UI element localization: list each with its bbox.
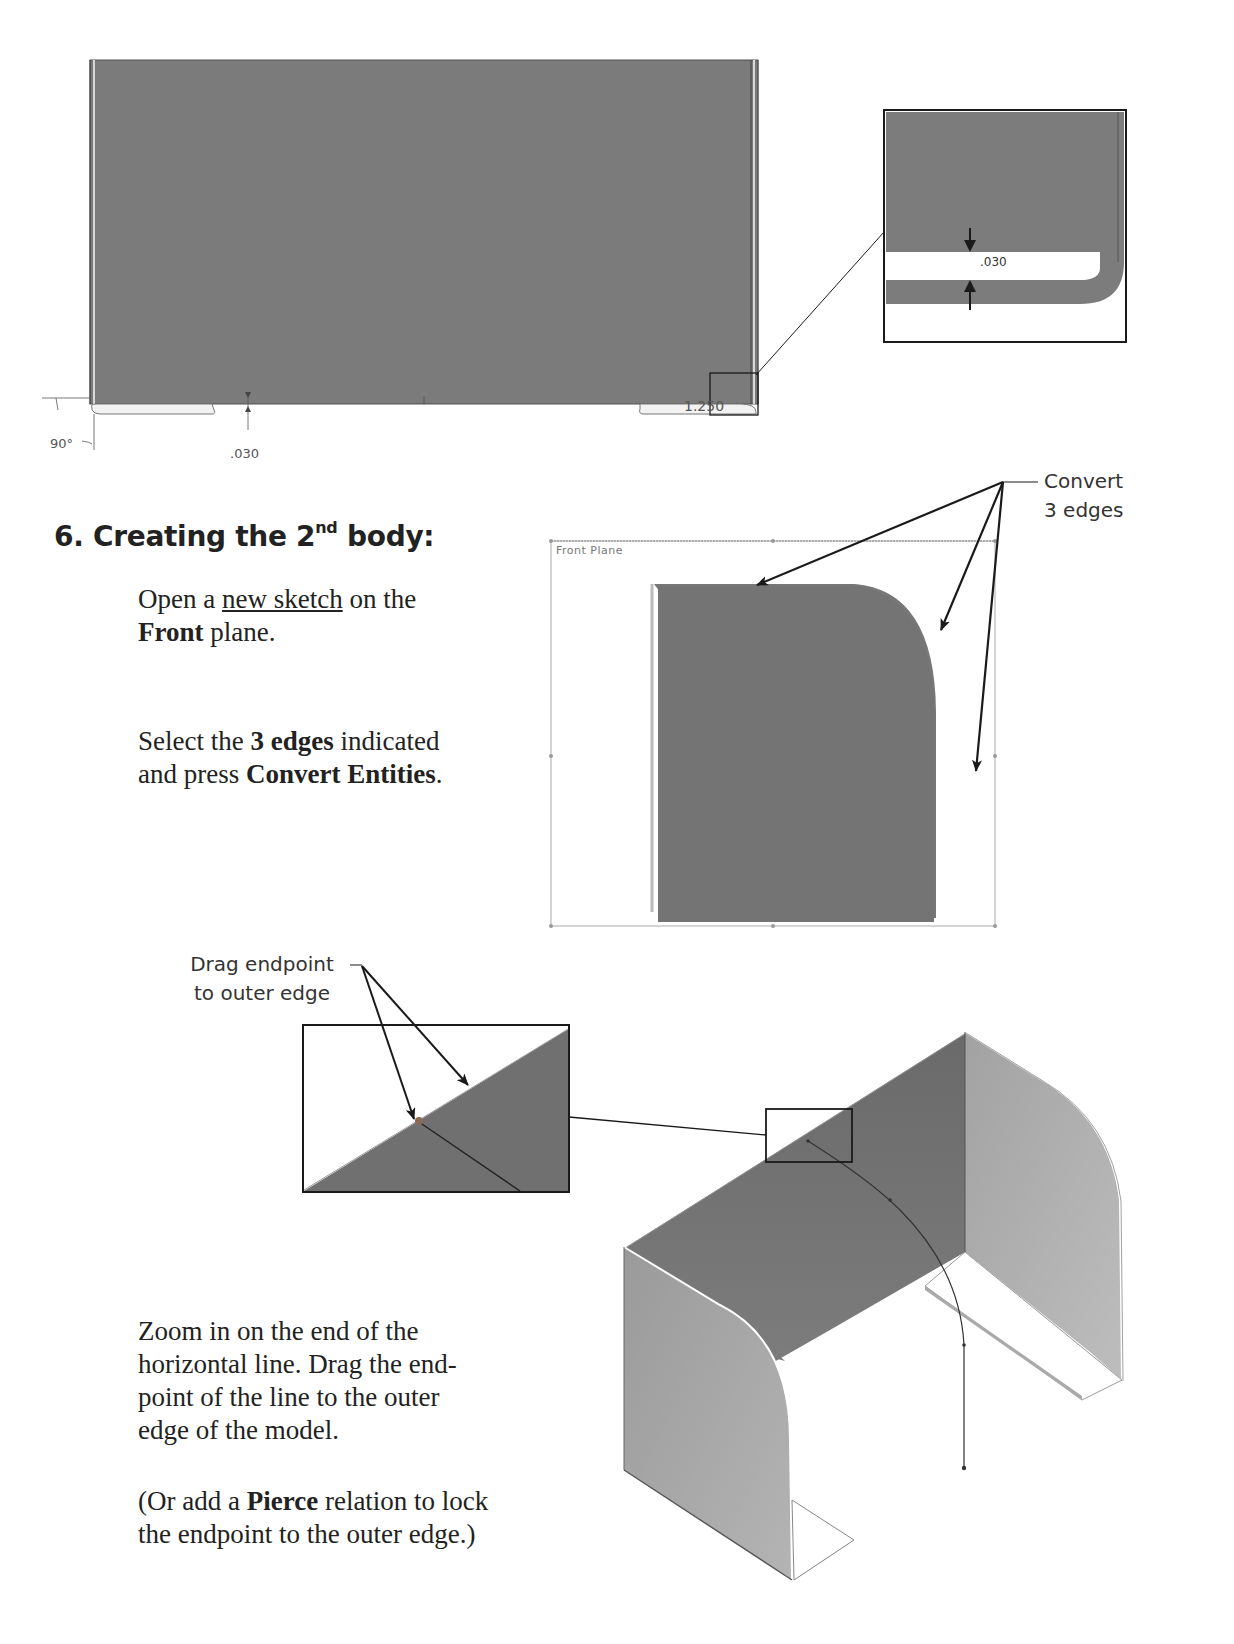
- front-plane-figure: [549, 539, 997, 928]
- section-number: 6.: [54, 520, 84, 553]
- detail-dimension-thickness: .030: [980, 255, 1007, 269]
- convert-edges-callout: Convert 3 edges: [1044, 467, 1184, 525]
- front-plane-label: Front Plane: [556, 544, 623, 557]
- front-plane-bold: Front: [138, 617, 204, 647]
- step3-line: horizontal line. Drag the end-: [138, 1348, 558, 1381]
- step2-text: indicated: [334, 726, 440, 756]
- step3-line: Zoom in on the end of the: [138, 1315, 558, 1348]
- callout-line: to outer edge: [172, 979, 352, 1008]
- step1-text: on the: [343, 584, 417, 614]
- step-convert-entities: Select the 3 edges indicated and press C…: [138, 725, 538, 791]
- callout-line: 3 edges: [1044, 496, 1184, 525]
- new-sketch-link: new sketch: [222, 584, 343, 614]
- step2-text: Select the: [138, 726, 250, 756]
- step-pierce-relation: (Or add a Pierce relation to lock the en…: [138, 1485, 578, 1551]
- detail-view: [884, 110, 1126, 342]
- step-drag-endpoint: Zoom in on the end of the horizontal lin…: [138, 1315, 558, 1447]
- section-heading: 6. Creating the 2nd body:: [54, 520, 434, 553]
- pierce-bold: Pierce: [247, 1486, 318, 1516]
- step-open-sketch: Open a new sketch on the Front plane.: [138, 583, 518, 649]
- step4-text: (Or add a: [138, 1486, 247, 1516]
- step1-text: Open a: [138, 584, 222, 614]
- section-title-prefix: Creating the 2: [93, 520, 315, 553]
- dimension-radius: 1.250: [684, 398, 724, 414]
- dimension-angle: 90°: [50, 436, 73, 451]
- step3-line: edge of the model.: [138, 1414, 558, 1447]
- inset-leader-line: [569, 1117, 766, 1135]
- step4-text: the endpoint to the outer edge.): [138, 1519, 475, 1549]
- step2-text: .: [436, 759, 443, 789]
- top-front-view: [42, 60, 884, 450]
- step2-text: and press: [138, 759, 246, 789]
- callout-line: Drag endpoint: [172, 950, 352, 979]
- callout-line: Convert: [1044, 467, 1184, 496]
- dimension-thickness-bottom: .030: [230, 446, 259, 461]
- section-title-sup: nd: [315, 518, 337, 537]
- step4-text: relation to lock: [318, 1486, 488, 1516]
- step1-text: plane.: [204, 617, 276, 647]
- three-edges-bold: 3 edges: [250, 726, 333, 756]
- drag-endpoint-callout: Drag endpoint to outer edge: [172, 950, 352, 1008]
- step3-line: point of the line to the outer: [138, 1381, 558, 1414]
- convert-entities-bold: Convert Entities: [246, 759, 436, 789]
- section-title-suffix: body:: [338, 520, 435, 553]
- isometric-model: [624, 1032, 1123, 1580]
